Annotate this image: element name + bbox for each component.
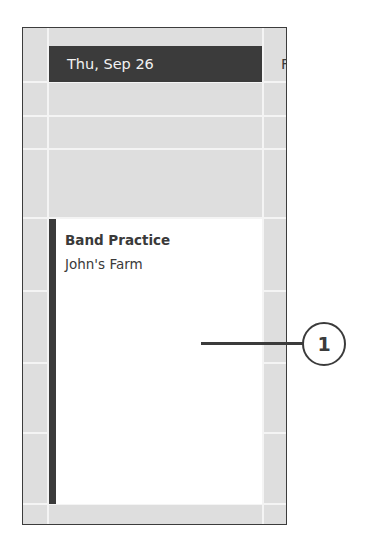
event-color-bar <box>49 219 56 504</box>
calendar-event[interactable]: Band Practice John's Farm <box>49 219 262 504</box>
next-day-header-label: Fri <box>281 56 287 72</box>
calendar-day-view: Thu, Sep 26 Fri Band Practice John's Far… <box>22 27 287 525</box>
event-location: John's Farm <box>65 256 143 272</box>
callout-number: 1 <box>317 333 330 355</box>
day-header-fri[interactable]: Fri <box>281 46 287 82</box>
hour-gridline <box>23 115 286 117</box>
hour-gridline <box>23 148 286 150</box>
callout-leader-line <box>201 342 303 345</box>
day-header-label: Thu, Sep 26 <box>67 56 154 72</box>
callout-number-badge: 1 <box>302 322 346 366</box>
column-divider <box>262 28 264 524</box>
event-title: Band Practice <box>65 232 170 248</box>
day-header-thu[interactable]: Thu, Sep 26 <box>49 46 262 82</box>
